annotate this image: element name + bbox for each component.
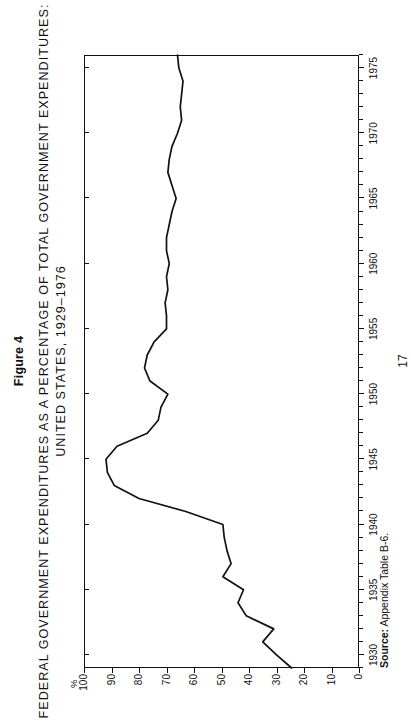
year-axis-tick-label: 1950 <box>369 374 379 414</box>
source-value: Appendix Table B-6. <box>378 533 390 629</box>
year-axis-tick-label: 1955 <box>369 309 379 349</box>
series-line <box>84 55 359 668</box>
value-axis-tick-label: 90 <box>107 674 117 702</box>
year-axis-minor-tick <box>359 171 363 172</box>
value-axis-tick <box>277 668 278 673</box>
year-axis-minor-tick <box>359 184 363 185</box>
chart-plot-area: % 1009080706050403020100 193019351940194… <box>84 55 359 668</box>
year-axis-minor-tick <box>359 380 363 381</box>
year-axis-minor-tick <box>359 93 363 94</box>
year-axis-tick-label: 1975 <box>369 48 379 88</box>
year-axis-minor-tick <box>359 602 363 603</box>
value-axis-tick <box>112 668 113 673</box>
value-axis-tick <box>304 668 305 673</box>
value-axis-tick <box>222 668 223 673</box>
year-axis-minor-tick <box>359 106 363 107</box>
value-axis-tick <box>84 668 85 673</box>
value-axis-tick <box>194 668 195 673</box>
value-axis-tick <box>167 668 168 673</box>
figure-title: FEDERAL GOVERNMENT EXPENDITURES AS A PER… <box>36 0 70 722</box>
figure-title-line-2: UNITED STATES, 1929–1976 <box>53 0 70 722</box>
value-axis-tick <box>249 668 250 673</box>
value-axis-tick-label: 20 <box>299 674 309 702</box>
year-axis-minor-tick <box>359 289 363 290</box>
year-axis-minor-tick <box>359 145 363 146</box>
year-axis-minor-tick <box>359 315 363 316</box>
value-axis-tick-label: 40 <box>244 674 254 702</box>
figure-container: Figure 4 FEDERAL GOVERNMENT EXPENDITURES… <box>0 0 411 722</box>
year-axis-major-tick <box>359 589 364 590</box>
page-number: 17 <box>396 0 410 722</box>
year-axis-minor-tick <box>359 54 363 55</box>
year-axis-tick-label: 1965 <box>369 178 379 218</box>
year-axis-tick-label: 1945 <box>369 439 379 479</box>
year-axis-minor-tick <box>359 537 363 538</box>
year-axis-minor-tick <box>359 497 363 498</box>
source-note: Source: Appendix Table B-6. <box>378 533 390 668</box>
year-axis-minor-tick <box>359 550 363 551</box>
rotated-figure-stage: Figure 4 FEDERAL GOVERNMENT EXPENDITURES… <box>0 0 411 722</box>
year-axis-major-tick <box>359 524 364 525</box>
value-axis-tick-label: 10 <box>327 674 337 702</box>
year-axis-minor-tick <box>359 367 363 368</box>
value-axis-tick-label: 70 <box>162 674 172 702</box>
year-axis-minor-tick <box>359 276 363 277</box>
year-axis-major-tick <box>359 67 364 68</box>
year-axis-minor-tick <box>359 211 363 212</box>
year-axis-minor-tick <box>359 563 363 564</box>
year-axis-minor-tick <box>359 119 363 120</box>
value-axis-tick-label: 30 <box>272 674 282 702</box>
figure-title-line-1: FEDERAL GOVERNMENT EXPENDITURES AS A PER… <box>37 4 51 719</box>
year-axis-minor-tick <box>359 224 363 225</box>
year-axis-minor-tick <box>359 576 363 577</box>
year-axis-minor-tick <box>359 484 363 485</box>
value-axis-tick-label: 80 <box>134 674 144 702</box>
value-axis-tick-label: 50 <box>217 674 227 702</box>
figure-number: Figure 4 <box>12 0 26 722</box>
year-axis-minor-tick <box>359 354 363 355</box>
year-axis-minor-tick <box>359 302 363 303</box>
value-axis-tick-label: 60 <box>189 674 199 702</box>
year-axis-tick-label: 1960 <box>369 244 379 284</box>
year-axis-minor-tick <box>359 628 363 629</box>
year-axis-minor-tick <box>359 445 363 446</box>
year-axis-minor-tick <box>359 641 363 642</box>
value-axis-tick <box>359 668 360 673</box>
year-axis-minor-tick <box>359 471 363 472</box>
value-axis-tick-label: 0 <box>354 674 364 702</box>
year-axis-major-tick <box>359 328 364 329</box>
year-axis-minor-tick <box>359 158 363 159</box>
year-axis-minor-tick <box>359 667 363 668</box>
year-axis-minor-tick <box>359 511 363 512</box>
year-axis-minor-tick <box>359 406 363 407</box>
year-axis-tick-label: 1970 <box>369 113 379 153</box>
year-axis-major-tick <box>359 393 364 394</box>
year-axis-minor-tick <box>359 615 363 616</box>
value-axis-tick <box>332 668 333 673</box>
year-axis-major-tick <box>359 654 364 655</box>
source-label: Source: <box>378 629 390 668</box>
value-axis-tick-label: 100 <box>79 674 89 702</box>
year-axis-minor-tick <box>359 432 363 433</box>
value-axis-tick <box>139 668 140 673</box>
year-axis-minor-tick <box>359 80 363 81</box>
year-axis-minor-tick <box>359 237 363 238</box>
year-axis-minor-tick <box>359 341 363 342</box>
year-axis-major-tick <box>359 197 364 198</box>
year-axis-minor-tick <box>359 250 363 251</box>
year-axis-major-tick <box>359 132 364 133</box>
year-axis-minor-tick <box>359 419 363 420</box>
year-axis-major-tick <box>359 458 364 459</box>
year-axis-major-tick <box>359 263 364 264</box>
